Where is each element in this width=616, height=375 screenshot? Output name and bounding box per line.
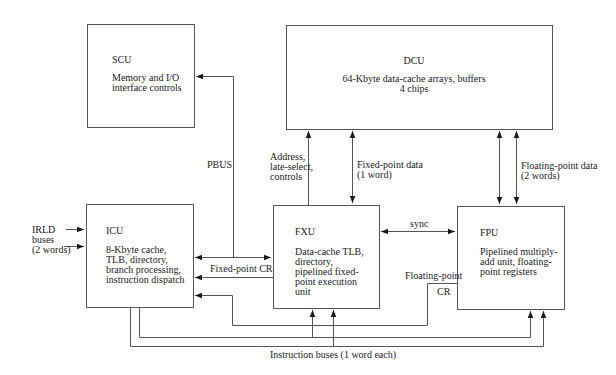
dcu-description: 64-Kbyte data-cache arrays, buffers 4 ch… (286, 74, 542, 94)
instruction-bus-1-wire (140, 307, 531, 338)
instruction-buses-label: Instruction buses (1 word each) (270, 350, 396, 360)
fxu-description: Data-cache TLB, directory, pipelined fix… (295, 247, 364, 297)
sync-label: sync (410, 219, 428, 229)
scu-title: SCU (112, 54, 131, 65)
instruction-bus-2-wire (131, 307, 544, 347)
pbus-label: PBUS (207, 160, 232, 170)
irld-label: IRLD buses (2 words) (32, 225, 71, 255)
dcu-title: DCU (286, 55, 542, 66)
floating-point-data-label: Floating-point data (2 words) (521, 161, 597, 181)
fixed-point-cr-label: Fixed-point CR (210, 264, 273, 274)
address-label: Address, late-select, controls (270, 152, 313, 182)
floating-point-cr-label-2: CR (437, 287, 450, 297)
scu-description: Memory and I/O interface controls (112, 73, 182, 93)
fxu-title: FXU (295, 226, 315, 237)
icu-description: 8-Kbyte cache, TLB, directory, branch pr… (106, 245, 185, 285)
floating-point-cr-label-1: Floating-point (405, 271, 462, 281)
fpu-title: FPU (480, 227, 498, 238)
fixed-point-data-label: Fixed-point data (1 word) (357, 160, 423, 180)
fpu-description: Pipelined multiply- add unit, floating- … (480, 247, 558, 277)
icu-title: ICU (106, 225, 123, 236)
